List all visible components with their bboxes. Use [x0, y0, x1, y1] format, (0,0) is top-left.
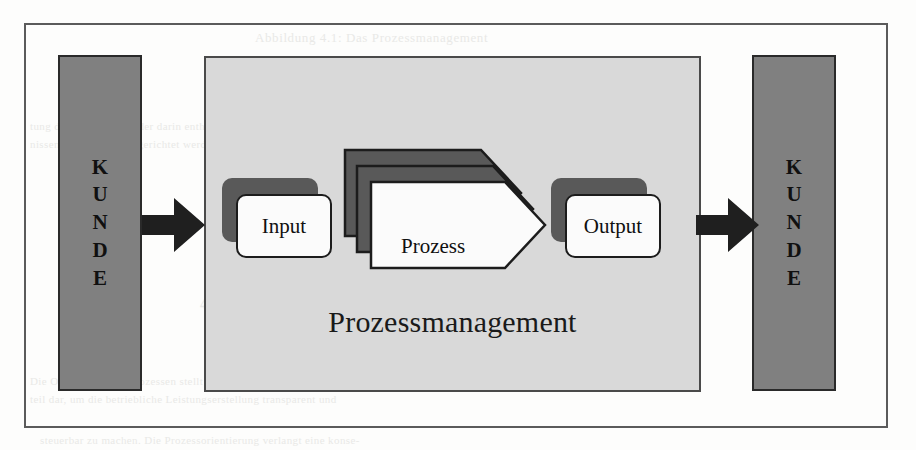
process-node-label: Prozess	[401, 234, 465, 259]
arrow-right-icon-inbound	[142, 196, 206, 258]
diagram-canvas: Abbildung 4.1: Das Prozessmanagement tun…	[0, 0, 916, 450]
output-node-card: Output	[565, 194, 661, 258]
input-node-card: Input	[236, 194, 332, 258]
customer-left-letter-n: N	[92, 209, 108, 237]
customer-right-letter-n: N	[786, 209, 802, 237]
customer-bar-left-label: K U N D E	[92, 154, 108, 293]
arrow-right-icon-outbound	[696, 196, 760, 258]
customer-right-letter-e: E	[786, 265, 802, 293]
customer-left-letter-k: K	[92, 154, 108, 182]
process-node: Prozess	[343, 148, 548, 273]
customer-right-letter-d: D	[786, 237, 802, 265]
customer-left-letter-u: U	[92, 181, 108, 209]
process-management-title: Prozessmanagement	[206, 305, 699, 339]
input-node-label: Input	[262, 214, 306, 239]
bleedthrough-text-bottom: steuerbar zu machen. Die Prozessorientie…	[40, 434, 360, 446]
customer-left-letter-d: D	[92, 237, 108, 265]
customer-right-letter-k: K	[786, 154, 802, 182]
customer-left-letter-e: E	[92, 265, 108, 293]
customer-right-letter-u: U	[786, 181, 802, 209]
customer-bar-left: K U N D E	[58, 55, 142, 391]
output-node-label: Output	[584, 214, 642, 239]
customer-bar-right: K U N D E	[752, 55, 836, 391]
customer-bar-right-label: K U N D E	[786, 154, 802, 293]
